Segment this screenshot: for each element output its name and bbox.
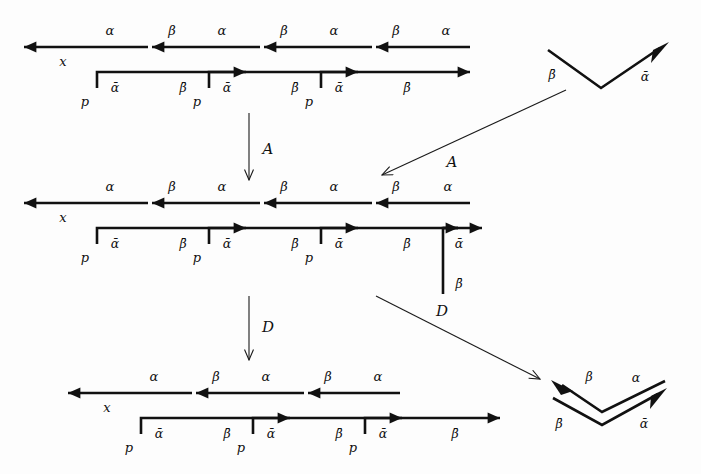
strip2-label-p-3: p [305,250,314,265]
strip3-label-betabar-1: β̄ [222,426,230,441]
chevron-double-label-alphabar: ᾱ [640,416,649,431]
chevron-single-arrowhead [651,42,669,63]
strip-diagram-1: α β α β α β α x ᾱ β̄ ᾱ β̄ ᾱ β̄ p p p [24,23,470,109]
operation-label-d-diagonal: D [435,302,448,320]
chevron-single-label-betabar: β̄ [547,67,555,82]
operation-arrow-d-vertical: D [249,296,274,360]
strip2-label-alphabar-1: ᾱ [111,236,120,251]
strip1-label-betabar-3: β̄ [402,80,410,95]
strip2-label-p-2: p [193,250,202,265]
chevron-double-label-betabar: β̄ [554,416,562,431]
strip1-label-alphabar-1: ᾱ [111,80,120,95]
chevron-single-label-alphabar: ᾱ [641,69,650,84]
operation-label-d-vertical: D [261,318,274,336]
strip2-label-tail-alphabar: ᾱ [455,236,464,251]
strip3-label-beta-2: β [323,369,332,384]
strip2-label-x: x [59,210,67,225]
strip1-label-p-1: p [81,94,90,109]
strip3-label-x: x [103,400,111,415]
strip3-label-betabar-2: β̄ [334,426,342,441]
strip3-label-beta-1: β [211,369,220,384]
strip1-label-betabar-2: β̄ [290,80,298,95]
strip2-label-tail-betabar: β̄ [454,276,462,291]
strip-diagram-3: α β α β α x ᾱ β̄ ᾱ β̄ ᾱ β̄ p p p [68,369,500,455]
figure-canvas: α β α β α β α x ᾱ β̄ ᾱ β̄ ᾱ β̄ p p p … [0,0,701,474]
strip3-label-p-1: p [125,440,134,455]
strip1-label-x: x [59,54,67,69]
strip3-label-alpha-2: α [262,369,271,384]
strip2-label-p-1: p [81,250,90,265]
chevron-double-label-alpha: α [632,370,641,385]
strip3-label-alphabar-3: ᾱ [379,426,388,441]
chevron-single: β̄ ᾱ [547,42,669,88]
strip1-label-beta-1: β [167,23,176,38]
strip3-label-alphabar-1: ᾱ [155,426,164,441]
strip2-label-beta-2: β [279,179,288,194]
strip2-label-beta-1: β [167,179,176,194]
operation-arrow-a-vertical: A [249,113,274,180]
strip1-label-p-2: p [193,94,202,109]
chevron-double-label-beta: β [584,369,592,384]
strip2-label-alpha-3: α [330,179,339,194]
strip2-label-alpha-1: α [106,179,115,194]
strip2-label-alphabar-2: ᾱ [223,236,232,251]
operation-label-a-vertical: A [261,140,274,158]
strip1-cell-3 [321,72,470,88]
strip2-label-betabar-1: β̄ [178,236,186,251]
strip1-label-alphabar-3: ᾱ [335,80,344,95]
strip1-label-beta-2: β [279,23,288,38]
strip1-label-alpha-4: α [442,23,451,38]
strip1-label-alpha-2: α [218,23,227,38]
strip3-label-alphabar-2: ᾱ [267,426,276,441]
diagram-svg: α β α β α β α x ᾱ β̄ ᾱ β̄ ᾱ β̄ p p p … [0,0,701,474]
strip3-label-alpha-3: α [374,369,383,384]
operation-arrow-d-diagonal: D [376,296,540,379]
strip2-label-betabar-3: β̄ [402,236,410,251]
strip1-label-alpha-3: α [330,23,339,38]
strip1-label-beta-3: β [391,23,400,38]
strip2-label-alphabar-3: ᾱ [335,236,344,251]
strip1-label-p-3: p [305,94,314,109]
strip1-label-alphabar-2: ᾱ [223,80,232,95]
strip2-label-alpha-2: α [218,179,227,194]
strip3-label-alpha-1: α [150,369,159,384]
strip3-label-p-3: p [349,440,358,455]
strip3-label-p-2: p [237,440,246,455]
strip-diagram-2: α β α β α β α x ᾱ β̄ ᾱ β̄ ᾱ β̄ ᾱ β̄ … [24,179,482,295]
strip2-label-alpha-4: α [444,179,453,194]
strip1-label-alpha-1: α [106,23,115,38]
operation-label-a-diagonal: A [445,153,458,171]
chevron-double-arrowhead-right [650,388,667,409]
operation-arrow-a-diagonal: A [382,90,566,175]
chevron-double: β α β̄ ᾱ [551,369,667,431]
chevron-double-arrowhead-left [551,380,573,395]
strip2-label-betabar-2: β̄ [290,236,298,251]
strip2-label-beta-3: β [391,179,400,194]
strip1-label-betabar-1: β̄ [178,80,186,95]
strip3-label-betabar-3: β̄ [450,426,458,441]
